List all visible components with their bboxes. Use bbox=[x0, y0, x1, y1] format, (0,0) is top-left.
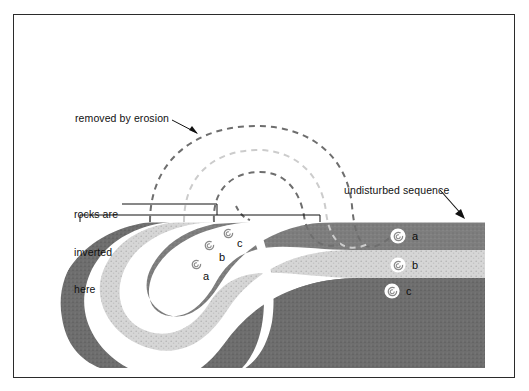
annotation-leaders bbox=[80, 120, 465, 222]
dashed-arc-inner-tail bbox=[236, 206, 250, 220]
fossil-label-c-left: c bbox=[237, 237, 243, 249]
fossil-label-a-left: a bbox=[203, 270, 210, 282]
label-rocks-inverted-line-2: inverted bbox=[74, 246, 118, 259]
fossil-label-b-right: b bbox=[412, 259, 418, 271]
fossil-label-a-right: a bbox=[412, 230, 419, 242]
fossil-label-c-right: c bbox=[406, 285, 412, 297]
figure-canvas: a b c a b c removed by erosion rocks are… bbox=[0, 0, 529, 391]
undisturbed-arrow-head bbox=[455, 209, 465, 219]
label-rocks-are-inverted-here: rocks are inverted here bbox=[74, 183, 118, 321]
label-rocks-inverted-line-1: rocks are bbox=[74, 208, 118, 221]
fossil-label-b-left: b bbox=[219, 251, 225, 263]
label-undisturbed-sequence: undisturbed sequence bbox=[344, 184, 449, 197]
ammonite-spiral-icon bbox=[390, 228, 405, 243]
ammonite-spiral-icon bbox=[390, 257, 405, 272]
erosion-arrow-head bbox=[189, 126, 198, 134]
label-rocks-inverted-line-3: here bbox=[74, 283, 118, 296]
ammonite-spiral-icon bbox=[384, 283, 399, 298]
ammonite-spiral-icon bbox=[201, 237, 216, 252]
label-removed-by-erosion: removed by erosion bbox=[75, 112, 169, 125]
ammonite-spiral-icon bbox=[188, 256, 203, 271]
ammonite-spiral-icon bbox=[220, 225, 235, 240]
